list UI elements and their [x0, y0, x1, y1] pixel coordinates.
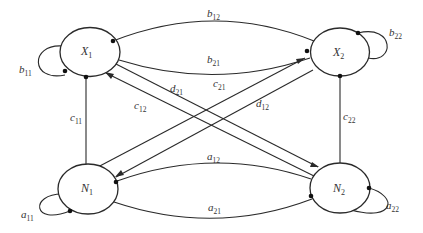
- dot-c22-target: [338, 74, 343, 79]
- dot-a22-source: [367, 186, 372, 191]
- dot-b12-source: [111, 39, 116, 44]
- arrowhead-d12: [115, 170, 124, 177]
- edge-label-a22: a22: [386, 199, 399, 214]
- edge-a12: [117, 163, 311, 181]
- edge-label-a21: a21: [208, 201, 221, 216]
- edge-label-c11: c11: [70, 111, 82, 126]
- edge-label-d21: d21: [170, 82, 183, 97]
- dot-b11-source: [63, 69, 68, 74]
- dot-a11-source: [68, 209, 73, 214]
- arrowhead-d21: [310, 162, 319, 167]
- edge-label-d12: d12: [256, 97, 269, 112]
- edge-label-b11: b11: [19, 63, 32, 78]
- edge-label-c22: c22: [343, 110, 356, 125]
- dot-b21-source: [305, 49, 310, 54]
- arrowhead-c12: [105, 72, 114, 79]
- edge-label-c21: c21: [213, 77, 226, 92]
- dot-c11-target: [84, 75, 89, 80]
- edge-b12: [113, 21, 314, 41]
- interaction-diagram: X1 X2 N1 N2 b12 b21 b11 b22 c11 c22 c12 …: [0, 0, 423, 233]
- dot-a12-source: [114, 180, 119, 185]
- dot-b22-source: [356, 31, 361, 36]
- edge-label-c12: c12: [134, 99, 147, 114]
- edge-label-b21: b21: [207, 53, 220, 68]
- edge-label-a11: a11: [21, 208, 34, 223]
- arrowhead-c21: [296, 58, 305, 64]
- dot-a21-source: [309, 194, 314, 199]
- edge-label-b12: b12: [207, 7, 220, 22]
- edge-label-b22: b22: [389, 26, 402, 41]
